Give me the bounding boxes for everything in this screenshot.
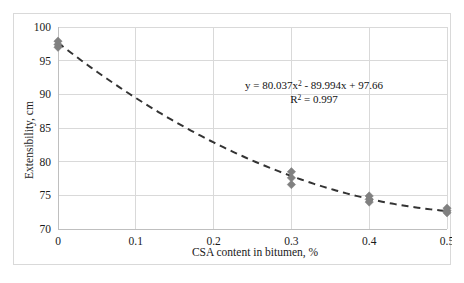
x-tick-label: 0.1 [129,235,144,247]
trendline-path [58,43,447,211]
y-tick-label: 90 [40,88,52,100]
plot-area: 707580859095100 00.10.20.30.40.5 y = 80.… [14,14,452,266]
x-tick-labels: 00.10.20.30.40.5 [55,235,452,247]
y-tick-label: 85 [40,122,52,134]
y-tick-label: 70 [40,223,52,235]
gridlines [58,27,447,229]
chart-container: Extensibility, cm CSA content in bitumen… [13,13,451,265]
x-tick-label: 0.2 [206,235,221,247]
equation-annotation: y = 80.037x2 - 89.994x + 97.66R2 = 0.997 [245,79,384,106]
trendline [58,43,447,211]
data-point-marker [287,180,295,188]
y-tick-label: 100 [34,21,52,33]
x-tick-label: 0.5 [440,235,452,247]
x-tick-label: 0.3 [284,235,299,247]
r-squared-line: R2 = 0.997 [290,93,338,106]
y-tick-labels: 707580859095100 [34,21,52,235]
y-tick-label: 75 [40,189,52,201]
data-points [54,37,451,217]
x-tick-label: 0.4 [362,235,377,247]
equation-line: y = 80.037x2 - 89.994x + 97.66 [245,79,384,92]
y-tick-label: 95 [40,55,52,67]
y-tick-label: 80 [40,156,52,168]
x-tick-label: 0 [55,235,61,247]
